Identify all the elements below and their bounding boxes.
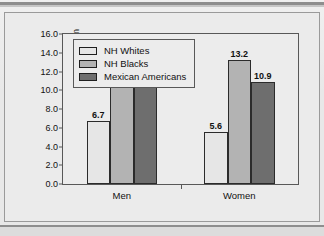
scan-band-top-secondary: [0, 5, 324, 7]
legend-swatch-icon: [79, 60, 97, 68]
scanned-page-background: Percent of Population 6.710.711.05.613.2…: [0, 0, 324, 236]
bar-value-label: 6.7: [92, 110, 105, 120]
y-tick-label: 8.0: [45, 104, 58, 114]
bar-value-label: 5.6: [209, 121, 222, 131]
bar: 10.9: [251, 82, 275, 184]
y-tick-label: 14.0: [40, 48, 58, 58]
y-tick-label: 10.0: [40, 85, 58, 95]
y-tick-mark: [59, 127, 63, 128]
legend-label: NH Whites: [104, 45, 149, 56]
bar-value-label: 13.2: [230, 49, 248, 59]
y-tick-label: 2.0: [45, 160, 58, 170]
legend-swatch-icon: [79, 73, 97, 81]
x-category-label: Women: [223, 190, 256, 201]
y-tick-mark: [59, 52, 63, 53]
y-tick-mark: [59, 109, 63, 110]
y-tick-mark: [59, 184, 63, 185]
y-tick-mark: [59, 165, 63, 166]
group-separator-tick: [181, 184, 183, 189]
bar: 10.7: [110, 84, 134, 184]
bar: 5.6: [204, 132, 228, 185]
legend-item: NH Whites: [79, 44, 186, 57]
y-tick-mark: [59, 34, 63, 35]
bar-value-label: 10.9: [254, 71, 272, 81]
y-tick-mark: [59, 90, 63, 91]
x-category-label: Men: [113, 190, 131, 201]
legend-label: NH Blacks: [104, 58, 148, 69]
legend-item: Mexican Americans: [79, 70, 186, 83]
y-tick-label: 6.0: [45, 123, 58, 133]
legend-swatch-icon: [79, 47, 97, 55]
legend-label: Mexican Americans: [104, 71, 186, 82]
y-tick-label: 4.0: [45, 142, 58, 152]
y-tick-mark: [59, 146, 63, 147]
bar: 6.7: [87, 121, 111, 184]
bar: 13.2: [228, 60, 252, 184]
legend-item: NH Blacks: [79, 57, 186, 70]
y-tick-label: 0.0: [45, 179, 58, 189]
y-tick-mark: [59, 71, 63, 72]
bar: 11.0: [134, 81, 158, 184]
y-tick-label: 16.0: [40, 29, 58, 39]
bar-chart: Percent of Population 6.710.711.05.613.2…: [62, 33, 299, 209]
figure-frame: Percent of Population 6.710.711.05.613.2…: [4, 12, 320, 222]
y-tick-label: 12.0: [40, 67, 58, 77]
chart-legend: NH WhitesNH BlacksMexican Americans: [73, 39, 195, 88]
scan-band-bottom-secondary: [0, 227, 324, 236]
